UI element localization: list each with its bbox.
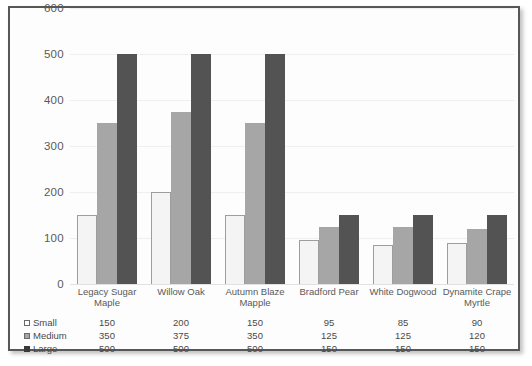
bar-large[interactable]	[413, 215, 433, 284]
legend-item-large[interactable]: Large	[24, 342, 74, 355]
y-axis-tick-label: 100	[44, 232, 64, 244]
table-cell: 500	[218, 342, 292, 355]
bar-group	[144, 8, 218, 284]
legend-item-label: Medium	[33, 330, 67, 341]
y-axis-tick-label: 300	[44, 140, 64, 152]
legend-item-medium[interactable]: Medium	[24, 329, 74, 342]
bar-group	[366, 8, 440, 284]
y-axis-tick-label: 600	[44, 2, 64, 14]
bar-medium[interactable]	[319, 227, 339, 285]
table-cell: 120	[440, 329, 514, 342]
legend-swatch-icon	[24, 333, 30, 339]
table-cell: 125	[366, 329, 440, 342]
table-row: 150200150958590	[70, 316, 514, 329]
table-cell: 375	[144, 329, 218, 342]
bar-small[interactable]	[225, 215, 245, 284]
table-cell: 350	[218, 329, 292, 342]
table-cell: 90	[440, 316, 514, 329]
legend-item-label: Large	[33, 343, 57, 354]
table-column-header: Willow Oak	[144, 286, 218, 314]
table-column-header: Dynamite Crape Myrtle	[440, 286, 514, 314]
bars-area	[70, 8, 514, 284]
bar-medium[interactable]	[171, 112, 191, 285]
bar-group	[70, 8, 144, 284]
table-cell: 150	[440, 342, 514, 355]
table-column-header: Autumn Blaze Mapple	[218, 286, 292, 314]
legend-swatch-icon	[24, 320, 30, 326]
table-cell: 150	[70, 316, 144, 329]
y-axis-tick-label: 400	[44, 94, 64, 106]
bar-group	[292, 8, 366, 284]
bar-medium[interactable]	[467, 229, 487, 284]
table-cell: 500	[144, 342, 218, 355]
table-cell: 85	[366, 316, 440, 329]
table-column-header: White Dogwood	[366, 286, 440, 314]
bar-large[interactable]	[117, 54, 137, 284]
table-column-header: Legacy Sugar Maple	[70, 286, 144, 314]
bar-group	[218, 8, 292, 284]
legend-item-label: Small	[33, 317, 57, 328]
table-cell: 350	[70, 329, 144, 342]
table-value-rows: 1502001509585903503753501251251205005005…	[70, 316, 514, 355]
bar-medium[interactable]	[97, 123, 117, 284]
data-table: Legacy Sugar MapleWillow OakAutumn Blaze…	[10, 284, 518, 349]
bar-large[interactable]	[265, 54, 285, 284]
table-cell: 150	[366, 342, 440, 355]
y-axis-tick-label: 500	[44, 48, 64, 60]
table-cell: 95	[292, 316, 366, 329]
legend-swatch-icon	[24, 346, 30, 352]
bar-medium[interactable]	[245, 123, 265, 284]
table-cell: 150	[218, 316, 292, 329]
bar-small[interactable]	[77, 215, 97, 284]
table-row: 500500500150150150	[70, 342, 514, 355]
table-cell: 125	[292, 329, 366, 342]
table-column-header: Bradford Pear	[292, 286, 366, 314]
table-cell: 200	[144, 316, 218, 329]
chart-container: 6005004003002001000 Legacy Sugar MapleWi…	[8, 6, 520, 351]
table-cell: 500	[70, 342, 144, 355]
bar-small[interactable]	[447, 243, 467, 284]
bar-small[interactable]	[373, 245, 393, 284]
legend-item-small[interactable]: Small	[24, 316, 74, 329]
table-cell: 150	[292, 342, 366, 355]
y-axis: 6005004003002001000	[10, 8, 70, 284]
bar-large[interactable]	[339, 215, 359, 284]
bar-small[interactable]	[151, 192, 171, 284]
bar-small[interactable]	[299, 240, 319, 284]
y-axis-tick-label: 200	[44, 186, 64, 198]
table-column-headers: Legacy Sugar MapleWillow OakAutumn Blaze…	[70, 286, 514, 314]
legend: SmallMediumLarge	[24, 316, 74, 355]
bar-large[interactable]	[487, 215, 507, 284]
bar-medium[interactable]	[393, 227, 413, 285]
table-row: 350375350125125120	[70, 329, 514, 342]
bar-group	[440, 8, 514, 284]
bar-large[interactable]	[191, 54, 211, 284]
